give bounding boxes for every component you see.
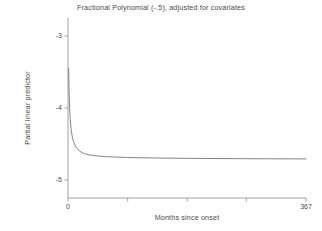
y-axis-ticks: -3-4-5 [56,32,68,183]
chart-screenshot: Fractional Polynomial (-.5), adjusted fo… [0,0,322,231]
y-axis-title: Partial linear predictor [23,71,32,145]
x-tick-label: 367 [300,203,312,210]
series-layer [69,68,306,158]
y-tick-label: -4 [56,104,62,111]
y-tick-label: -3 [56,32,62,39]
x-tick-label: 0 [66,203,70,210]
x-axis-ticks: 0367 [66,198,312,210]
series-line [69,68,306,158]
x-axis-title: Months since onset [155,213,220,222]
y-tick-label: -5 [56,176,62,183]
chart-plot-area: -3-4-5 0367 Partial linear predictor Mon… [0,0,322,231]
